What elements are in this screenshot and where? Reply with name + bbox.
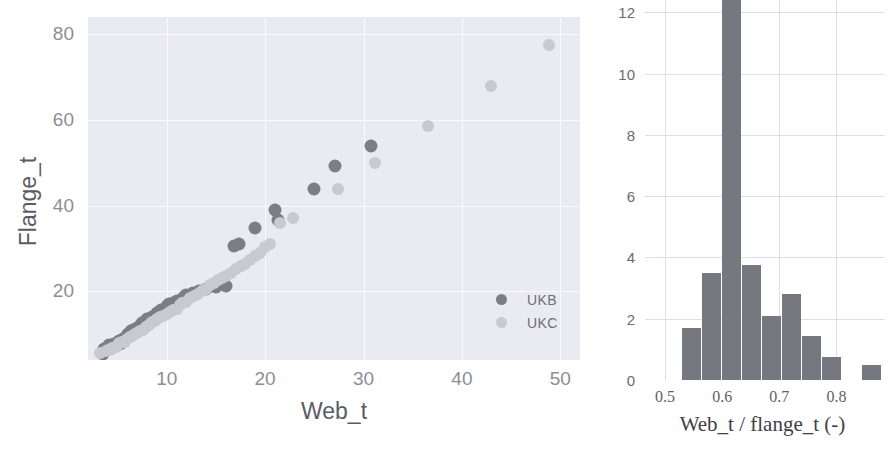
scatter-x-axis-label: Web_t [88, 398, 580, 425]
legend-item-ukc: UKC [490, 311, 582, 334]
histogram-x-tick-label: 0.7 [769, 388, 789, 406]
legend-label-ukc: UKC [527, 315, 558, 331]
scatter-legend: UKB UKC [490, 288, 582, 334]
scatter-x-tick-label: 50 [550, 368, 571, 390]
legend-marker-ukb-icon [496, 294, 507, 305]
scatter-x-tick-label: 20 [255, 368, 276, 390]
legend-label-ukb: UKB [527, 292, 557, 308]
histogram-x-axis-ticks: 0.50.60.70.8 [595, 0, 895, 449]
scatter-x-tick-label: 10 [156, 368, 177, 390]
scatter-panel: 20406080 1020304050 Web_t Flange_t UKB U… [0, 0, 595, 449]
scatter-y-axis-label: Flange_t [15, 92, 42, 312]
legend-marker-ukc-icon [496, 317, 507, 328]
histogram-panel: 024681012 0.50.60.70.8 Web_t / flange_t … [595, 0, 895, 449]
figure-canvas: 20406080 1020304050 Web_t Flange_t UKB U… [0, 0, 895, 449]
scatter-x-axis-ticks: 1020304050 [0, 0, 595, 449]
histogram-x-tick-label: 0.5 [655, 388, 675, 406]
histogram-x-tick-label: 0.8 [826, 388, 846, 406]
histogram-x-tick-label: 0.6 [712, 388, 732, 406]
scatter-x-tick-label: 40 [451, 368, 472, 390]
legend-item-ukb: UKB [490, 288, 582, 311]
histogram-x-axis-label: Web_t / flange_t (-) [635, 412, 890, 437]
scatter-x-tick-label: 30 [353, 368, 374, 390]
